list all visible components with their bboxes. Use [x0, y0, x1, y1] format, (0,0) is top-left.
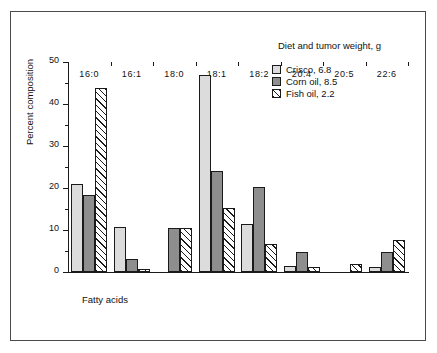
x-tick-mark — [408, 62, 409, 66]
legend-title: Diet and tumor weight, g — [278, 40, 381, 51]
x-tick-mark — [196, 62, 197, 66]
legend-label: Fish oil, 2.2 — [286, 88, 335, 99]
y-axis-title: Percent composition — [24, 59, 35, 145]
bar — [211, 171, 223, 272]
x-tick-label: 18:0 — [164, 69, 184, 79]
x-axis-title: Fatty acids — [82, 294, 128, 305]
bar — [296, 252, 308, 272]
x-tick-label: 20:5 — [334, 69, 354, 79]
x-tick-mark — [111, 62, 112, 66]
bar — [350, 264, 362, 272]
legend-item: Crisco, 6.8 — [272, 64, 331, 75]
y-tick-mark — [63, 104, 68, 105]
y-tick-label: 50 — [49, 55, 59, 65]
bar — [308, 267, 320, 272]
figure-canvas: Percent composition Fatty acids 01020304… — [0, 0, 437, 353]
y-tick-label: 0 — [54, 265, 59, 275]
plot-area: 01020304050 16:016:118:018:118:220:420:5… — [68, 62, 408, 272]
legend-label: Corn oil, 8.5 — [286, 76, 337, 87]
bar — [241, 224, 253, 272]
y-tick-mark — [63, 272, 68, 273]
legend-swatch — [272, 65, 281, 74]
x-tick-label: 18:2 — [249, 69, 269, 79]
y-tick-mark — [65, 167, 68, 168]
bar — [223, 208, 235, 272]
bar — [369, 267, 381, 272]
y-tick-mark — [63, 146, 68, 147]
bar — [126, 259, 138, 272]
bar — [180, 228, 192, 272]
x-tick-label: 16:1 — [122, 69, 142, 79]
y-tick-mark — [63, 188, 68, 189]
bar — [393, 240, 405, 272]
y-tick-mark — [65, 125, 68, 126]
bar — [95, 88, 107, 272]
legend-item: Corn oil, 8.5 — [272, 76, 337, 87]
bar — [168, 228, 180, 272]
x-tick-mark — [366, 62, 367, 66]
y-tick-mark — [65, 209, 68, 210]
y-tick-mark — [63, 230, 68, 231]
legend-swatch — [272, 89, 281, 98]
bar — [253, 187, 265, 272]
bar — [83, 195, 95, 272]
y-tick-label: 40 — [49, 97, 59, 107]
y-tick-label: 10 — [49, 223, 59, 233]
y-tick-mark — [65, 251, 68, 252]
bar — [284, 266, 296, 272]
bar — [138, 269, 150, 272]
y-tick-label: 20 — [49, 181, 59, 191]
bar — [114, 227, 126, 272]
x-axis-line — [68, 272, 409, 273]
bar — [381, 252, 393, 272]
legend-swatch — [272, 77, 281, 86]
bar — [265, 244, 277, 272]
x-tick-label: 22:6 — [377, 69, 397, 79]
x-tick-label: 16:0 — [79, 69, 99, 79]
legend-label: Crisco, 6.8 — [286, 64, 331, 75]
bar — [199, 75, 211, 272]
x-tick-mark — [153, 62, 154, 66]
y-tick-mark — [65, 83, 68, 84]
bar — [71, 184, 83, 272]
x-tick-mark — [68, 62, 69, 66]
x-tick-mark — [238, 62, 239, 66]
legend-item: Fish oil, 2.2 — [272, 88, 335, 99]
y-tick-label: 30 — [49, 139, 59, 149]
